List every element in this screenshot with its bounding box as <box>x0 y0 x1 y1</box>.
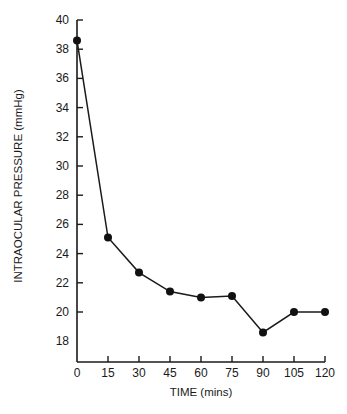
x-tick-label: 15 <box>101 366 115 380</box>
x-tick-label: 90 <box>256 366 270 380</box>
y-tick-label: 32 <box>56 130 70 144</box>
y-tick-label: 26 <box>56 217 70 231</box>
data-series <box>73 36 329 336</box>
line-chart: 182022242628303234363840 015304560759010… <box>0 0 347 414</box>
y-tick-label: 38 <box>56 42 70 56</box>
y-tick-label: 40 <box>56 13 70 27</box>
x-axis-title: TIME (mins) <box>170 386 233 398</box>
y-tick-label: 24 <box>56 247 70 261</box>
y-axis-ticks: 182022242628303234363840 <box>56 13 83 348</box>
x-tick-label: 60 <box>194 366 208 380</box>
x-tick-label: 30 <box>132 366 146 380</box>
x-axis-ticks: 0153045607590105120 <box>74 356 336 380</box>
x-tick-label: 75 <box>225 366 239 380</box>
y-tick-label: 30 <box>56 159 70 173</box>
data-point-marker <box>73 36 81 44</box>
data-point-marker <box>321 308 329 316</box>
data-point-marker <box>197 293 205 301</box>
y-tick-label: 18 <box>56 334 70 348</box>
data-point-marker <box>290 308 298 316</box>
series-line <box>77 40 325 332</box>
x-tick-label: 45 <box>163 366 177 380</box>
data-point-marker <box>259 328 267 336</box>
data-point-marker <box>166 288 174 296</box>
x-tick-label: 105 <box>284 366 304 380</box>
x-tick-label: 0 <box>74 366 81 380</box>
data-point-marker <box>104 234 112 242</box>
y-tick-label: 34 <box>56 101 70 115</box>
y-tick-label: 22 <box>56 276 70 290</box>
data-point-marker <box>135 269 143 277</box>
axes <box>77 20 325 362</box>
data-point-marker <box>228 292 236 300</box>
y-tick-label: 20 <box>56 305 70 319</box>
y-axis-title: INTRAOCULAR PRESSURE (mmHg) <box>12 89 24 283</box>
x-tick-label: 120 <box>315 366 335 380</box>
y-tick-label: 28 <box>56 188 70 202</box>
y-tick-label: 36 <box>56 71 70 85</box>
